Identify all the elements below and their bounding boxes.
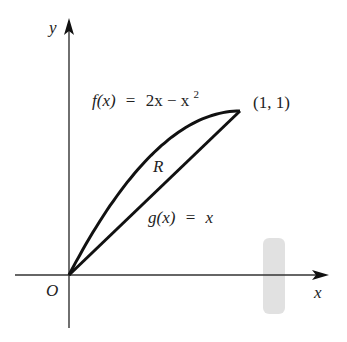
scan-smudge: [263, 238, 285, 314]
f-label-exp: 2: [194, 88, 200, 100]
area-between-curves-diagram: y x O f(x) = 2x − x 2 g(x) = x R (1, 1): [0, 0, 347, 342]
f-label: f(x) = 2x − x 2: [92, 88, 199, 110]
region-label: R: [152, 157, 164, 176]
x-axis-label: x: [313, 283, 322, 302]
curve-g: [69, 111, 240, 275]
f-label-lhs: f(x): [92, 91, 116, 110]
g-label-eq: =: [186, 208, 196, 227]
g-label-lhs: g(x): [148, 208, 176, 227]
f-label-eq: =: [126, 91, 136, 110]
origin-label: O: [46, 281, 58, 300]
g-label-rhs: x: [204, 208, 213, 227]
y-axis-label: y: [47, 18, 57, 37]
intersection-point-label: (1, 1): [253, 93, 290, 112]
f-label-rhs: 2x − x: [146, 91, 190, 110]
g-label: g(x) = x: [148, 208, 213, 227]
